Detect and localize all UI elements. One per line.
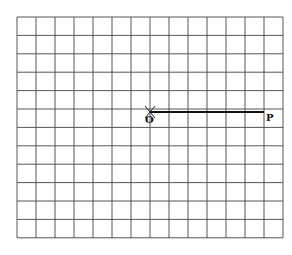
grid-paper bbox=[0, 0, 292, 255]
point-label-p: P bbox=[266, 113, 274, 123]
diagram-canvas: O P bbox=[0, 0, 292, 255]
point-label-o: O bbox=[145, 115, 154, 125]
